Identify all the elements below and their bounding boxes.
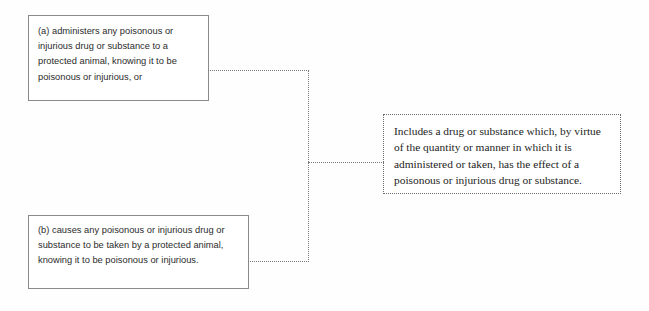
provision-a-text: (a) administers any poisonous or injurio…	[38, 24, 199, 85]
diagram-canvas: (a) administers any poisonous or injurio…	[0, 0, 649, 311]
definition-note-box: Includes a drug or substance which, by v…	[383, 114, 621, 194]
connector-provision-a-to-spine	[208, 70, 309, 71]
connector-vertical-spine	[308, 70, 309, 262]
connector-spine-to-definition-note	[308, 162, 384, 163]
definition-note-text: Includes a drug or substance which, by v…	[394, 123, 610, 189]
connector-provision-b-to-spine	[248, 261, 309, 262]
provision-b-text: (b) causes any poisonous or injurious dr…	[38, 223, 239, 269]
provision-a-box: (a) administers any poisonous or injurio…	[28, 15, 209, 101]
provision-b-box: (b) causes any poisonous or injurious dr…	[28, 215, 249, 289]
